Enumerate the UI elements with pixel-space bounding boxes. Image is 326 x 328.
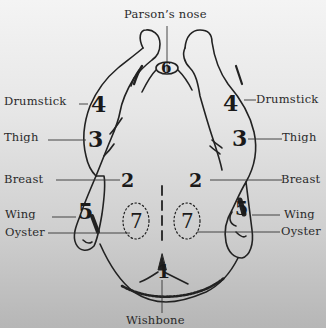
label-wing-right: Wing xyxy=(284,209,315,221)
label-thigh-left: Thigh xyxy=(4,132,39,144)
label-parsons-nose: Parson’s nose xyxy=(124,9,207,21)
number-wishbone: 1 xyxy=(157,262,170,281)
label-breast-left: Breast xyxy=(4,174,43,186)
number-thigh-left: 3 xyxy=(88,128,103,150)
label-wishbone: Wishbone xyxy=(126,315,185,327)
right-leg-outline xyxy=(185,30,256,182)
number-thigh-right: 3 xyxy=(232,127,247,149)
number-wing-left: 5 xyxy=(78,200,93,222)
label-thigh-right: Thigh xyxy=(282,132,317,144)
number-drumstick-right: 4 xyxy=(223,92,238,114)
number-wing-right: 5 xyxy=(235,199,248,218)
label-drumstick-left: Drumstick xyxy=(4,96,66,108)
label-wing-left: Wing xyxy=(5,209,36,221)
label-oyster-left: Oyster xyxy=(5,227,45,239)
label-oyster-right: Oyster xyxy=(281,226,321,238)
label-drumstick-right: Drumstick xyxy=(256,94,318,106)
number-oyster-right: 7 xyxy=(181,211,194,231)
label-breast-right: Breast xyxy=(281,174,320,186)
number-breast-right: 2 xyxy=(189,171,202,190)
number-drumstick-left: 4 xyxy=(91,93,106,115)
number-breast-left: 2 xyxy=(121,171,134,190)
number-parsons-nose: 6 xyxy=(161,61,171,76)
number-oyster-left: 7 xyxy=(130,211,143,231)
